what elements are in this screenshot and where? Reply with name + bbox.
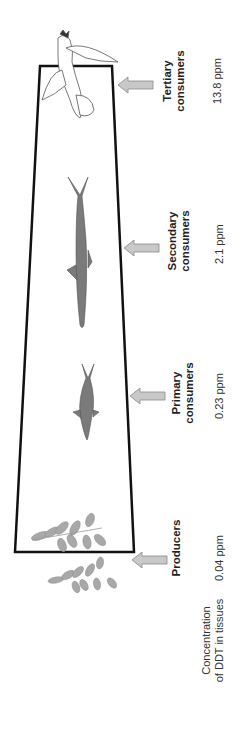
arrow-producers-icon: [132, 552, 167, 568]
label-secondary: Secondary consumers: [166, 208, 192, 274]
label-primary-line1: Primary: [170, 360, 183, 426]
concentration-secondary: 2.1 ppm: [213, 224, 226, 264]
concentration-primary: 0.23 ppm: [213, 373, 226, 419]
arrow-tertiary-icon: [118, 77, 153, 93]
label-tertiary-line2: consumers: [174, 48, 187, 114]
producer-leaves-icon: [30, 512, 107, 553]
producer-leaves-outside-icon: [48, 556, 119, 593]
arrow-primary-icon: [130, 388, 165, 404]
label-producers: Producers: [170, 513, 183, 583]
row-label-line1: Concentration: [200, 593, 213, 688]
row-label-line2: of DDT in tissues: [213, 593, 226, 688]
arrow-secondary-icon: [124, 240, 159, 256]
food-chain-diagram: Tertiary consumers Secondary consumers P…: [0, 0, 241, 729]
large-fish-icon: [67, 177, 92, 328]
bird-icon: [42, 30, 118, 118]
small-fish-icon: [73, 364, 99, 440]
label-primary: Primary consumers: [170, 360, 196, 426]
label-tertiary: Tertiary consumers: [161, 48, 187, 114]
label-secondary-line2: consumers: [179, 208, 192, 274]
concentration-producers: 0.04 ppm: [213, 535, 226, 581]
label-primary-line2: consumers: [183, 360, 196, 426]
label-tertiary-line1: Tertiary: [161, 48, 174, 114]
label-producers-line1: Producers: [170, 513, 183, 583]
concentration-row-label: Concentration of DDT in tissues: [200, 593, 225, 688]
concentration-tertiary: 13.8 ppm: [211, 58, 224, 104]
biomagnification-trapezoid: [15, 66, 134, 552]
label-secondary-line1: Secondary: [166, 208, 179, 274]
